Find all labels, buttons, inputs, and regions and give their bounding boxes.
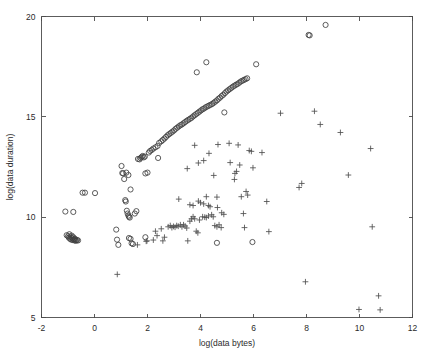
marker-plus — [303, 279, 309, 285]
series-plus — [114, 108, 383, 312]
marker-plus — [153, 228, 159, 234]
marker-plus — [356, 307, 362, 313]
marker-plus — [215, 205, 221, 211]
x-tick-label-4: 6 — [251, 323, 256, 333]
marker-circle — [114, 237, 119, 242]
y-axis-title: log(data duration) — [5, 134, 15, 201]
marker-circle — [92, 190, 97, 195]
marker-plus — [242, 225, 248, 231]
marker-circle — [245, 76, 250, 81]
marker-plus — [227, 160, 233, 166]
marker-plus — [214, 194, 220, 200]
marker-plus — [250, 165, 256, 171]
marker-plus — [264, 199, 270, 205]
marker-plus — [195, 160, 201, 166]
marker-plus — [197, 217, 203, 223]
marker-plus — [312, 108, 318, 114]
marker-plus — [162, 234, 168, 240]
marker-circle — [204, 60, 209, 65]
y-tick-label-3: 20 — [26, 12, 36, 22]
x-tick-label-6: 10 — [355, 323, 365, 333]
marker-plus — [232, 177, 238, 183]
marker-circle — [71, 209, 76, 214]
marker-circle — [214, 240, 219, 245]
marker-plus — [215, 142, 221, 148]
marker-plus — [192, 142, 198, 148]
marker-plus — [190, 203, 196, 209]
marker-plus — [369, 224, 375, 230]
marker-plus — [184, 166, 190, 172]
marker-circle — [323, 22, 328, 27]
scatter-plot-figure: -20246810125101520log(data bytes)log(dat… — [0, 0, 432, 355]
marker-plus — [296, 185, 302, 191]
x-axis-title: log(data bytes) — [199, 338, 255, 348]
marker-plus — [154, 233, 160, 239]
x-tick-label-5: 8 — [304, 323, 309, 333]
marker-circle — [160, 137, 165, 142]
marker-plus — [299, 181, 305, 187]
marker-plus — [203, 194, 209, 200]
marker-circle — [116, 242, 121, 247]
marker-circle — [254, 62, 259, 67]
marker-plus — [266, 229, 272, 235]
y-tick-label-0: 5 — [31, 313, 36, 323]
marker-plus — [150, 237, 156, 243]
marker-plus — [144, 238, 150, 244]
marker-plus — [211, 173, 217, 179]
marker-plus — [176, 196, 182, 202]
x-tick-label-7: 12 — [408, 323, 418, 333]
marker-plus — [114, 271, 120, 277]
x-tick-label-3: 4 — [198, 323, 203, 333]
y-tick-label-1: 10 — [26, 212, 36, 222]
marker-plus — [201, 158, 207, 164]
marker-plus — [237, 162, 243, 168]
marker-circle — [119, 163, 124, 168]
x-tick-label-1: 0 — [92, 323, 97, 333]
marker-circle — [250, 239, 255, 244]
plot-canvas: -20246810125101520log(data bytes)log(dat… — [0, 0, 432, 355]
marker-plus — [235, 142, 241, 148]
marker-circle — [128, 187, 133, 192]
marker-plus — [206, 150, 212, 156]
y-tick-label-2: 15 — [26, 112, 36, 122]
series-circles — [63, 22, 328, 247]
marker-plus — [207, 204, 213, 210]
marker-plus — [245, 192, 251, 198]
marker-circle — [122, 176, 127, 181]
data-markers-group — [63, 22, 383, 312]
marker-plus — [376, 293, 382, 299]
marker-circle — [63, 209, 68, 214]
axis-labels-group: -20246810125101520log(data bytes)log(dat… — [5, 12, 417, 348]
marker-plus — [226, 140, 232, 146]
marker-plus — [278, 110, 284, 116]
marker-circle — [114, 227, 119, 232]
marker-plus — [243, 189, 249, 195]
marker-plus — [259, 150, 265, 156]
marker-plus — [187, 202, 193, 208]
x-tick-label-0: -2 — [38, 323, 46, 333]
x-tick-label-2: 2 — [145, 323, 150, 333]
plot-frame — [42, 17, 413, 318]
marker-plus — [338, 130, 344, 136]
marker-circle — [194, 70, 199, 75]
marker-plus — [368, 146, 374, 152]
marker-plus — [185, 238, 191, 244]
axes-group — [42, 17, 413, 318]
marker-plus — [241, 211, 247, 217]
marker-plus — [160, 238, 166, 244]
marker-plus — [158, 226, 164, 232]
marker-plus — [238, 194, 244, 200]
marker-plus — [345, 172, 351, 178]
marker-plus — [377, 307, 383, 313]
marker-circle — [222, 110, 227, 115]
marker-plus — [317, 122, 323, 128]
marker-circle — [156, 155, 161, 160]
